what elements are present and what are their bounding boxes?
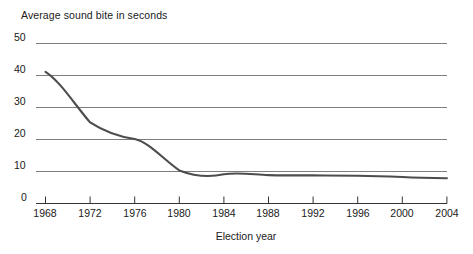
y-tick-label-0: 0 (21, 191, 27, 203)
x-tick-label-1972: 1972 (78, 207, 101, 219)
x-tick-label-1968: 1968 (33, 207, 56, 219)
x-axis-title: Election year (216, 230, 277, 243)
series-line (46, 72, 447, 178)
y-tick-label-20: 20 (14, 127, 26, 139)
y-tick-label-10: 10 (14, 159, 26, 171)
x-tick-label-1984: 1984 (212, 207, 235, 219)
x-tick-label-1996: 1996 (346, 207, 369, 219)
x-tick-label-2000: 2000 (390, 207, 413, 219)
x-tick-label-1980: 1980 (167, 207, 190, 219)
line-chart: Average sound bite in seconds 50 40 (0, 0, 473, 254)
y-tick-label-30: 30 (14, 95, 26, 107)
x-tick-label-2004: 2004 (435, 207, 458, 219)
x-tick-label-1988: 1988 (256, 207, 279, 219)
y-tick-label-40: 40 (14, 63, 26, 75)
x-tick-label-1992: 1992 (301, 207, 324, 219)
x-axis (36, 197, 447, 204)
x-tick-label-1976: 1976 (123, 207, 146, 219)
y-tick-label-50: 50 (14, 31, 26, 43)
gridlines (36, 44, 447, 172)
data-series-sound-bite (46, 72, 447, 178)
